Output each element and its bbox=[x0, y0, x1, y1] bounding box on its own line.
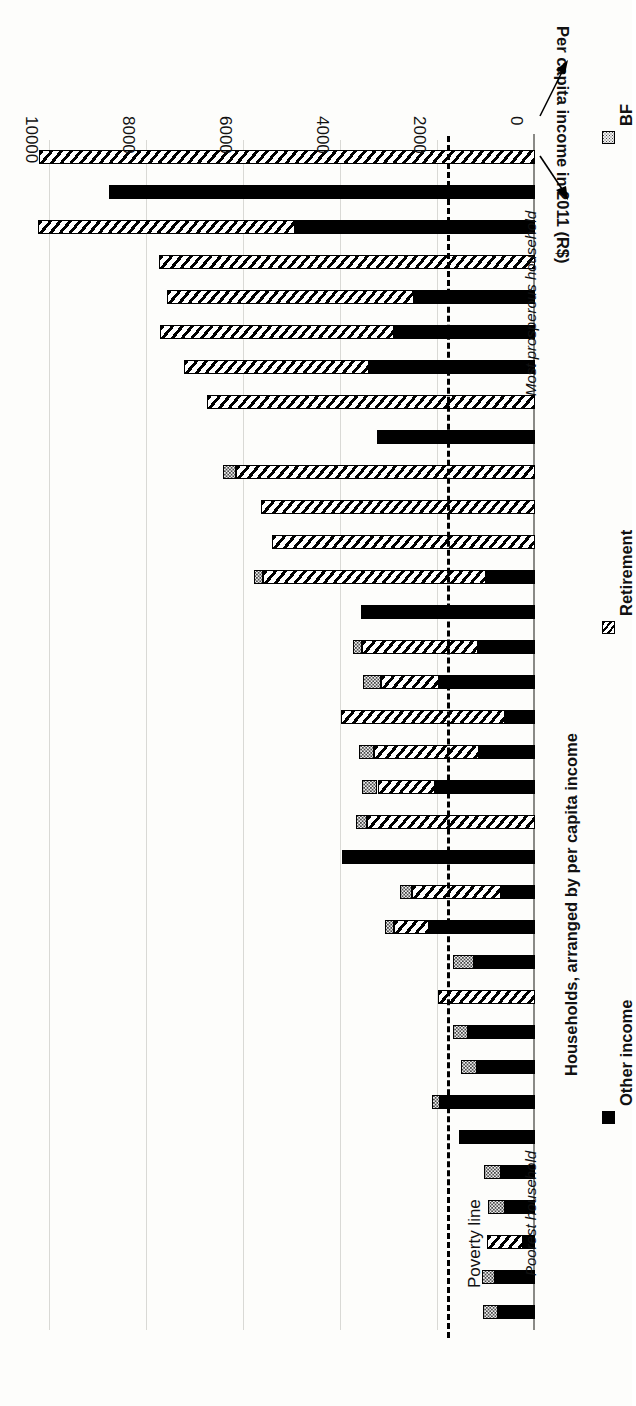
legend-label-other-income: Other income bbox=[617, 1000, 636, 1106]
legend-label-bf: BF bbox=[617, 104, 636, 126]
legend-swatch-retirement bbox=[602, 621, 615, 634]
legend-label-retirement: Retirement bbox=[617, 530, 636, 616]
legend-swatch-bf bbox=[602, 131, 615, 144]
legend-swatch-other-income bbox=[602, 1111, 615, 1124]
